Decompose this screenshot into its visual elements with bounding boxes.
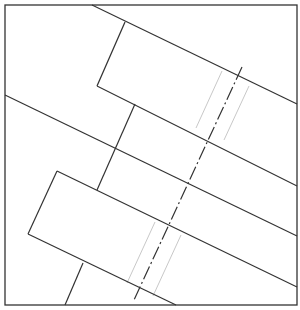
upper-strip-bottom-edge bbox=[97, 86, 297, 186]
bottom-connector bbox=[65, 263, 83, 305]
object-outlines bbox=[5, 5, 297, 305]
drawing-frame bbox=[5, 5, 297, 305]
faint-line bbox=[127, 222, 155, 283]
lower-strip-bottom-edge bbox=[28, 234, 176, 305]
middle-connector bbox=[97, 104, 135, 190]
lower-strip-top-edge bbox=[57, 171, 297, 287]
upper-strip-top-edge bbox=[92, 5, 297, 104]
lower-strip-left-end bbox=[28, 171, 57, 234]
long-diagonal bbox=[5, 95, 297, 236]
faint-line bbox=[224, 86, 249, 140]
faint-line bbox=[153, 235, 181, 296]
centerline bbox=[134, 67, 242, 300]
upper-strip-left-end bbox=[97, 22, 125, 86]
diagram-canvas bbox=[0, 0, 300, 310]
